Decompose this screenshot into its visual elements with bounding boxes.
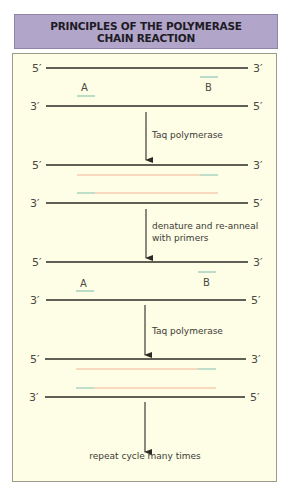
- step-2-extended-strands: 5′ 3′ 3′ 5′: [30, 159, 263, 210]
- step-4-extended-strands: 5′ 3′ 3′ 5′: [29, 353, 261, 404]
- primer-b-label: B: [205, 82, 212, 93]
- arrow3-label: Taq polymerase: [151, 326, 223, 336]
- step4-bottom-right-label: 5′: [250, 391, 260, 404]
- arrow4-label: repeat cycle many times: [89, 451, 201, 461]
- step2-top-left-label: 5′: [32, 159, 42, 172]
- primer-b-label: B: [203, 277, 210, 288]
- step1-bottom-left-label: 3′: [30, 100, 40, 113]
- step4-top-right-label: 3′: [251, 353, 261, 366]
- step1-top-right-label: 3′: [253, 62, 263, 75]
- step3-bottom-left-label: 3′: [30, 294, 40, 307]
- step3-bottom-right-label: 5′: [251, 294, 261, 307]
- primer-a-label: A: [80, 278, 87, 289]
- pcr-diagram: 5′ 3′ B A 3′ 5′ Taq polymerase 5′ 3′ 3′ …: [0, 0, 291, 491]
- step3-top-right-label: 3′: [253, 256, 263, 269]
- step2-top-right-label: 3′: [253, 159, 263, 172]
- arrow2-label-line1: denature and re-anneal: [152, 221, 258, 231]
- step-1-template-strands: 5′ 3′ B A 3′ 5′: [30, 62, 263, 113]
- arrow1-label: Taq polymerase: [151, 130, 223, 140]
- step4-bottom-left-label: 3′: [29, 391, 39, 404]
- step3-top-left-label: 5′: [32, 256, 42, 269]
- primer-a-label: A: [81, 82, 88, 93]
- step2-bottom-left-label: 3′: [30, 197, 40, 210]
- step1-top-left-label: 5′: [32, 62, 42, 75]
- arrow2-label-line2: with primers: [152, 233, 209, 243]
- step-3-template-strands: 5′ 3′ B A 3′ 5′: [30, 256, 263, 307]
- step4-top-left-label: 5′: [30, 353, 40, 366]
- step1-bottom-right-label: 5′: [253, 100, 263, 113]
- step2-bottom-right-label: 5′: [253, 197, 263, 210]
